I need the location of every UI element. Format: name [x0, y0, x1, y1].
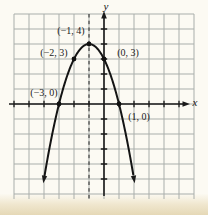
parabola-figure: (−1, 4) (−2, 3) (0, 3) (−3, 0) (1, 0) x … [0, 0, 208, 215]
data-point-dot [57, 102, 62, 107]
y-axis-arrow-icon [101, 11, 107, 19]
point-label-neg2-3: (−2, 3) [40, 48, 67, 58]
data-point-dot [117, 102, 122, 107]
point-label-0-3: (0, 3) [117, 48, 139, 58]
x-axis-arrow-icon [183, 101, 191, 107]
point-label-neg3-0: (−3, 0) [30, 88, 57, 98]
point-label-1-0: (1, 0) [128, 112, 150, 122]
y-axis-label: y [104, 1, 109, 12]
data-point-dot [72, 57, 77, 62]
plot-canvas [0, 0, 208, 215]
data-point-dot [87, 42, 92, 47]
point-label-vertex: (−1, 4) [57, 26, 84, 36]
x-axis-label: x [193, 97, 198, 108]
data-point-dot [102, 57, 107, 62]
